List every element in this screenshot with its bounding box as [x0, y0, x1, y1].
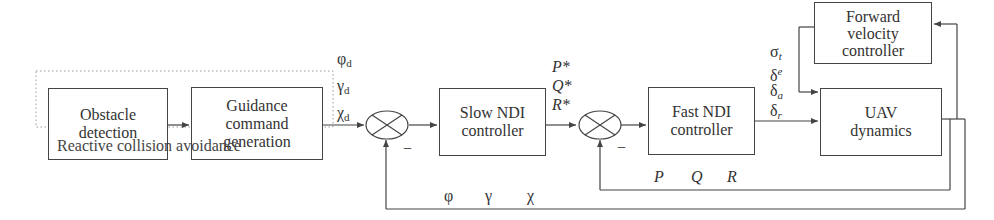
sigma-t-symbol: σ [770, 43, 779, 60]
sigma-t-sub: t [779, 50, 782, 62]
delta-r-symbol: δ [770, 102, 778, 119]
delta-e-sub: e [778, 65, 783, 77]
feedback-r-label: R [727, 168, 737, 185]
uav-dynamics-block: UAV dynamics [820, 88, 942, 156]
r-star-label: R* [552, 96, 572, 113]
feedback-chi-label: χ [527, 187, 534, 204]
feedback-p-label: P [654, 168, 664, 185]
uav-dynamics-label: UAV dynamics [850, 104, 911, 140]
chi-d-sub: d [344, 111, 350, 123]
fast-ndi-label: Fast NDI controller [670, 103, 732, 139]
forward-velocity-controller-block: Forward velocity controller [814, 2, 932, 64]
feedback-phi-label: φ [444, 187, 453, 204]
summing-junction-inner [579, 111, 621, 139]
delta-r-sub: r [778, 109, 782, 121]
p-star-label: P* [552, 58, 572, 75]
forward-velocity-label: Forward velocity controller [842, 8, 904, 59]
summing-junction-outer [366, 111, 408, 139]
slow-ndi-label: Slow NDI controller [460, 104, 525, 140]
phi-d-symbol: φ [337, 50, 346, 67]
feedback-q-label: Q [691, 168, 703, 185]
group-caption: Reactive collision avoidance [57, 137, 241, 155]
slow-ndi-controller-block: Slow NDI controller [439, 88, 546, 156]
minus-sign-inner: − [617, 139, 626, 156]
phi-d-sub: d [346, 57, 352, 69]
actuator-signals: σt δe δa δr [770, 44, 783, 123]
desired-signals: φd γd χd [337, 50, 352, 126]
delta-a-symbol: δ [770, 82, 778, 99]
rate-command-signals: P* Q* R* [552, 58, 572, 113]
delta-a-sub: a [778, 89, 784, 101]
minus-sign-outer: − [403, 140, 412, 157]
gamma-d-sub: d [344, 84, 350, 96]
fast-ndi-controller-block: Fast NDI controller [648, 87, 755, 155]
q-star-label: Q* [552, 77, 572, 94]
feedback-gamma-label: γ [485, 187, 492, 204]
